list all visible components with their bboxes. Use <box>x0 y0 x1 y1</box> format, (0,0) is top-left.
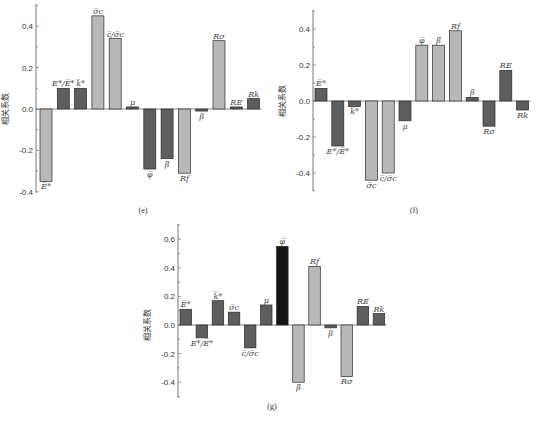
bar <box>500 70 512 101</box>
y-tick-label: 0.0 <box>22 105 34 114</box>
bar <box>357 306 369 325</box>
y-tick-label: 0.2 <box>164 292 176 301</box>
bar <box>40 109 52 181</box>
panel-label: (g) <box>267 402 277 411</box>
chart-panel-g: -0.4-0.20.00.20.40.6相关系数E̅*E*/E̅*k̅*σ̅cc… <box>142 224 387 411</box>
y-tick-label: 0.4 <box>299 25 311 34</box>
bar <box>180 309 192 325</box>
bar-label: β <box>469 88 475 97</box>
bar <box>196 109 208 111</box>
bar <box>244 325 256 348</box>
y-tick-label: -0.2 <box>161 350 175 359</box>
y-tick-label: 0.2 <box>22 64 34 73</box>
bar <box>416 45 428 101</box>
bar <box>332 101 344 146</box>
bar <box>365 101 377 180</box>
bar-label: Rσ <box>212 32 225 41</box>
bar-label: E*/E̅* <box>326 147 349 156</box>
bar <box>212 301 224 325</box>
y-axis-label: 相关系数 <box>0 93 10 125</box>
bar <box>325 325 337 328</box>
bar <box>466 97 478 101</box>
bar-label: Rf <box>450 22 462 31</box>
panel-label: (f) <box>410 206 418 215</box>
bar <box>144 109 156 169</box>
bar-label: β <box>198 112 204 121</box>
bar <box>433 45 445 101</box>
bar <box>213 41 225 109</box>
bar <box>261 305 273 325</box>
bar-label: Rk <box>247 90 259 99</box>
bar-label: E̅* <box>180 300 191 309</box>
bar <box>373 314 385 325</box>
bar <box>449 31 461 101</box>
bar-label: μ <box>130 98 135 107</box>
bar-label: E*/E̅* <box>51 79 74 88</box>
bar <box>228 312 240 325</box>
bar <box>315 88 327 101</box>
bar-label: μ <box>402 122 407 131</box>
y-tick-label: -0.2 <box>19 146 33 155</box>
bar-label: c̅/σ̅c <box>380 174 398 183</box>
bar-label: β <box>327 329 333 338</box>
y-tick-label: 0.2 <box>299 61 311 70</box>
bar <box>127 107 139 109</box>
bar <box>196 325 208 338</box>
chart-panel-f: -0.4-0.20.00.20.4相关系数E̅*E*/E̅*k̅*σ̅cc̅/σ… <box>277 10 531 215</box>
bar-label: RE <box>229 98 242 107</box>
bar <box>309 266 321 325</box>
bar-label: k̅* <box>76 79 85 89</box>
bar-label: c̅/σ̅c <box>107 30 125 39</box>
y-tick-label: 0.0 <box>299 97 311 106</box>
bar-label: E̅* <box>315 79 326 88</box>
bar-label: k̅* <box>350 107 359 117</box>
bar-label: β̅ <box>295 383 301 392</box>
bar-label: σ̅c <box>229 303 239 312</box>
y-tick-label: 0.6 <box>164 235 176 244</box>
bar-label: E*/E̅* <box>190 338 213 347</box>
bar-label: Rσ <box>482 127 495 136</box>
bar <box>483 101 495 126</box>
bar-label: c̅/σ̅c <box>242 349 260 358</box>
bar-label: φ̅ <box>419 36 425 45</box>
bar-label: φ̅ <box>280 237 286 246</box>
y-tick-label: -0.4 <box>19 188 33 197</box>
bar <box>277 246 289 325</box>
bar <box>57 88 69 109</box>
panel-label: (e) <box>139 206 148 215</box>
bar <box>293 325 305 382</box>
bar <box>109 39 121 109</box>
bar-label: β̅ <box>435 36 441 45</box>
y-axis-label: 相关系数 <box>142 309 152 341</box>
bar-label: Rσ <box>340 377 353 386</box>
bar-label: RE <box>499 61 512 70</box>
bar-label: Rk <box>373 305 385 314</box>
chart-panel-e: -0.4-0.20.00.20.4相关系数E̅*E*/E̅*k̅*σ̅cc̅/σ… <box>0 4 262 215</box>
bar <box>349 101 361 106</box>
bar <box>230 107 242 109</box>
bar <box>341 325 353 376</box>
y-tick-label: -0.2 <box>296 133 310 142</box>
y-tick-label: -0.4 <box>161 378 175 387</box>
bar-label: σ̅c <box>93 7 103 16</box>
bar-label: Rf <box>179 174 191 183</box>
bar-label: RE <box>356 297 369 306</box>
bar-label: E̅* <box>40 182 51 191</box>
bar-label: β̅ <box>164 160 170 169</box>
bar-label: Rf <box>309 257 321 266</box>
bar <box>517 101 529 110</box>
bar <box>178 109 190 173</box>
bar-label: k̅* <box>213 291 222 301</box>
y-axis-label: 相关系数 <box>277 85 287 117</box>
bar <box>248 99 260 109</box>
y-tick-label: -0.4 <box>296 169 310 178</box>
bar <box>399 101 411 121</box>
bar-label: Rk <box>516 111 528 120</box>
bar-label: μ <box>264 296 269 305</box>
bar-label: φ̅ <box>147 170 153 179</box>
bar <box>92 16 104 109</box>
correlation-bar-charts: -0.4-0.20.00.20.4相关系数E̅*E*/E̅*k̅*σ̅cc̅/σ… <box>0 0 536 424</box>
y-tick-label: 0.4 <box>164 264 176 273</box>
bar <box>382 101 394 173</box>
y-tick-label: 0.0 <box>164 321 176 330</box>
